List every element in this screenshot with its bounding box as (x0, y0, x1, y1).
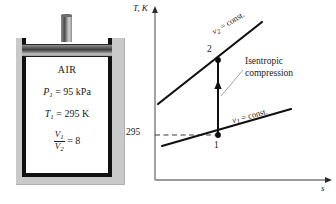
temperature-value: T1 = 295 K (26, 108, 108, 121)
annotation-leader-line (221, 70, 243, 96)
state-point-1-marker (215, 132, 221, 138)
pressure-equals: = 95 kPa (55, 86, 91, 97)
state-point-2-marker (215, 57, 221, 63)
t-axis-label: T, K (133, 3, 148, 13)
piston-plate (22, 44, 112, 57)
s-axis-label: s (321, 183, 325, 193)
volume-ratio-equals: = 8 (67, 135, 80, 146)
pressure-value: P1 = 95 kPa (26, 86, 108, 99)
thermodynamics-figure: AIR P1 = 95 kPa T1 = 295 K V1 V2 = 8 (0, 0, 336, 204)
temperature-equals: = 295 K (56, 108, 89, 119)
piston-cylinder-device: AIR P1 = 95 kPa T1 = 295 K V1 V2 = 8 (16, 38, 124, 184)
y-tick-label-295: 295 (126, 127, 140, 137)
volume-ratio-denominator: V2 (54, 142, 65, 153)
volume-ratio-value: V1 V2 = 8 (26, 130, 108, 154)
isochor-v1-line (162, 109, 291, 146)
volume-ratio-fraction: V1 V2 (54, 130, 65, 154)
ts-diagram-canvas (150, 0, 336, 204)
cylinder-wall-right (108, 38, 112, 177)
cylinder-wall-bottom (22, 173, 112, 177)
ts-diagram: T, K s 295 2 1 v2 = const. v1 = const. I… (150, 0, 336, 204)
state-point-2-label: 2 (207, 44, 212, 54)
s-axis-arrowhead (325, 177, 332, 183)
state-point-1-label: 1 (214, 140, 219, 150)
annotation-line-2: compression (245, 68, 293, 80)
piston-rod-cap (61, 14, 72, 17)
temperature-subscript: 1 (50, 113, 54, 121)
volume-numerator-subscript: 1 (60, 133, 64, 141)
piston-rod (61, 15, 72, 42)
isentropic-compression-annotation: Isentropic compression (245, 56, 293, 80)
volume-denominator-subscript: 2 (60, 145, 64, 153)
pressure-subscript: 1 (49, 91, 53, 99)
process-direction-arrow (214, 80, 221, 89)
gas-label: AIR (26, 64, 108, 75)
annotation-line-1: Isentropic (245, 56, 293, 68)
t-axis-arrowhead (152, 6, 158, 13)
